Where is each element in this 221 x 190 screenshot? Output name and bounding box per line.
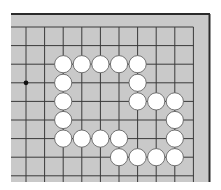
white-stone[interactable]: [110, 149, 127, 166]
white-stone[interactable]: [129, 74, 146, 91]
white-stone[interactable]: [92, 56, 109, 73]
go-board[interactable]: [0, 0, 221, 190]
white-stone[interactable]: [55, 130, 72, 147]
star-points: [24, 80, 29, 85]
white-stone[interactable]: [129, 93, 146, 110]
white-stone[interactable]: [166, 111, 183, 128]
white-stone[interactable]: [129, 149, 146, 166]
white-stone[interactable]: [166, 130, 183, 147]
white-stone[interactable]: [110, 130, 127, 147]
white-stone[interactable]: [110, 56, 127, 73]
white-stone[interactable]: [55, 111, 72, 128]
white-stone[interactable]: [92, 130, 109, 147]
white-stone[interactable]: [55, 93, 72, 110]
white-stone[interactable]: [55, 56, 72, 73]
white-stone[interactable]: [166, 93, 183, 110]
white-stone[interactable]: [148, 149, 165, 166]
white-stone[interactable]: [73, 130, 90, 147]
star-point: [24, 80, 29, 85]
white-stone[interactable]: [55, 74, 72, 91]
white-stone[interactable]: [148, 93, 165, 110]
white-stone[interactable]: [166, 149, 183, 166]
white-stone[interactable]: [73, 56, 90, 73]
white-stone[interactable]: [129, 56, 146, 73]
